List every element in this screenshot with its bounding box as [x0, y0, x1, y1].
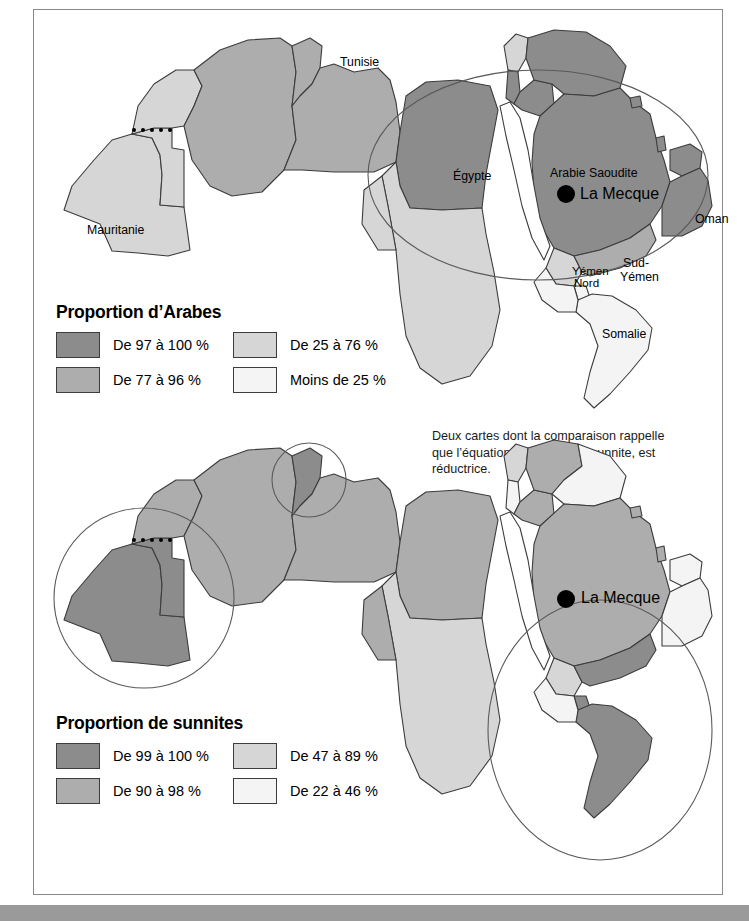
map-label-la-mecque-sunnites: La Mecque [581, 590, 660, 607]
legend-label-sunnites-2: De 90 à 98 % [113, 783, 201, 799]
region-algerie-s [184, 448, 296, 606]
legend-swatch-sunnites-2 [56, 778, 100, 804]
region-somalie-s [576, 704, 652, 818]
legend-entry-sunnites-0: De 99 à 100 % [56, 743, 209, 769]
region-egypte-s [396, 490, 498, 620]
legend-label-sunnites-0: De 99 à 100 % [113, 748, 209, 764]
region-liban-s [504, 444, 528, 482]
map-sunnites-svg [34, 420, 724, 890]
marker-la-mecque-sunnites [555, 588, 577, 610]
figure-frame: Tunisie Mauritanie Égypte Arabie Saoudit… [33, 9, 723, 895]
legend-label-sunnites-3: De 22 à 46 % [290, 783, 378, 799]
legend-entry-sunnites-3: De 22 à 46 % [233, 778, 378, 804]
legend-label-sunnites-1: De 47 à 89 % [290, 748, 378, 764]
legend-title-sunnites: Proportion de sunnites [56, 713, 378, 734]
legend-swatch-sunnites-0 [56, 743, 100, 769]
page-bottom-bar [0, 905, 749, 921]
legend-proportion-sunnites: Proportion de sunnites De 99 à 100 % De … [56, 713, 378, 804]
legend-swatch-sunnites-1 [233, 743, 277, 769]
legend-swatch-sunnites-3 [233, 778, 277, 804]
region-koweit-s [630, 506, 642, 518]
region-qatar-s [656, 546, 666, 562]
legend-entry-sunnites-2: De 90 à 98 % [56, 778, 209, 804]
legend-entry-sunnites-1: De 47 à 89 % [233, 743, 378, 769]
